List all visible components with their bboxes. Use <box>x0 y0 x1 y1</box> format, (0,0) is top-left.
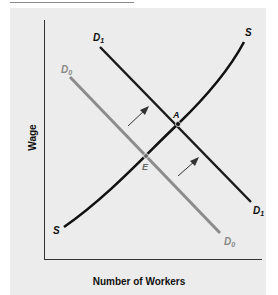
labor-market-diagram: S S A E D1 D1 D0 D0 <box>0 0 278 295</box>
y-axis-label: Wage <box>27 118 38 158</box>
label-s-top: S <box>245 27 252 38</box>
label-d1-bottom: D1 <box>253 205 264 217</box>
label-a: A <box>172 110 180 120</box>
x-axis-label: Number of Workers <box>0 276 278 287</box>
equilibrium-point-a <box>176 122 181 127</box>
label-d0-top: D0 <box>61 64 72 76</box>
shift-arrow-icon <box>128 106 149 126</box>
label-e: E <box>142 162 149 172</box>
label-s-bottom: S <box>53 225 60 236</box>
equilibrium-point-e <box>144 154 149 159</box>
supply-curve <box>64 42 244 227</box>
label-d1-top: D1 <box>93 32 104 44</box>
shift-arrow-icon <box>178 157 199 176</box>
label-d0-bottom: D0 <box>224 236 235 248</box>
